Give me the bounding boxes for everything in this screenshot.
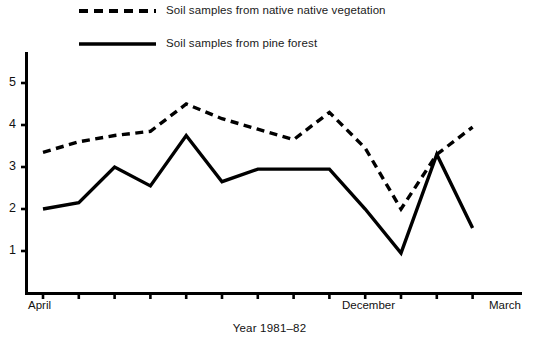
series-line-native-vegetation (43, 104, 473, 209)
y-tick-label-1: 1 (2, 243, 16, 257)
chart-plot-area (0, 0, 539, 347)
x-axis-caption: Year 1981–82 (0, 322, 539, 334)
x-tick-label-march: March (489, 299, 521, 311)
y-tick-label-2: 2 (2, 201, 16, 215)
x-tick-label-december: December (342, 299, 395, 311)
chart-figure: Soil samples from native native vegetati… (0, 0, 539, 347)
y-tick-label-3: 3 (2, 159, 16, 173)
series-line-pine-forest (43, 136, 473, 254)
y-tick-label-5: 5 (2, 75, 16, 89)
legend-item-label-pine-forest: Soil samples from pine forest (166, 37, 317, 49)
legend-item-label-native-vegetation: Soil samples from native native vegetati… (166, 4, 386, 16)
x-tick-label-april: April (28, 299, 51, 311)
y-tick-label-4: 4 (2, 117, 16, 131)
